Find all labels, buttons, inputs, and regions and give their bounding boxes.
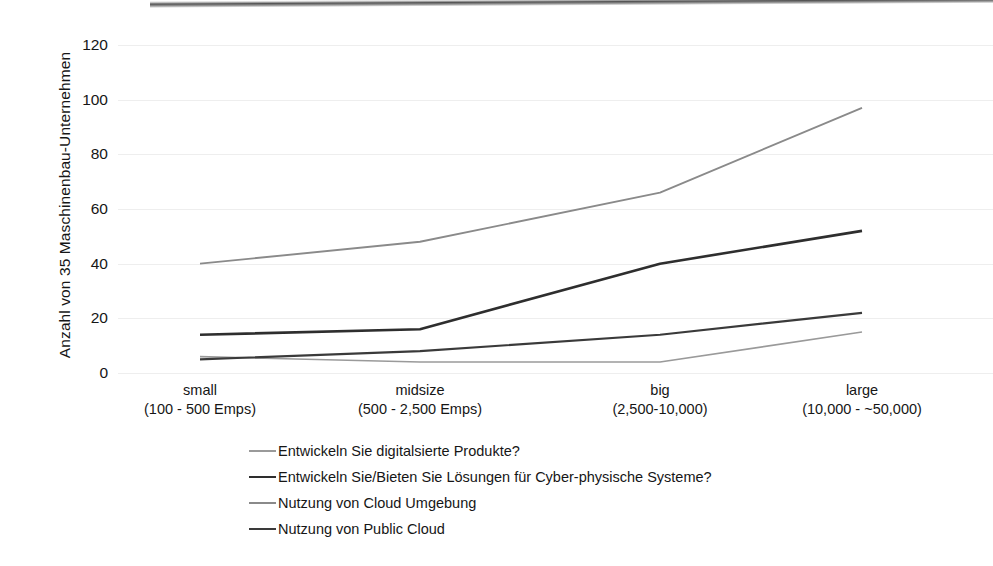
y-axis-tick-label: 60 <box>62 201 108 217</box>
x-category-name: big <box>650 382 669 398</box>
chart-legend: Entwickeln Sie digitalsierte Produkte?En… <box>249 438 949 542</box>
y-axis-tick-label: 40 <box>62 256 108 272</box>
x-axis-category-midsize: midsize(500 - 2,500 Emps) <box>305 381 535 419</box>
series-line-2 <box>200 231 862 335</box>
line-chart-figure: Anzahl von 35 Maschinenbau-Unternehmen 0… <box>0 0 993 566</box>
legend-item-3[interactable]: Nutzung von Cloud Umgebung <box>249 490 949 516</box>
y-axis-tick-label: 100 <box>62 92 108 108</box>
x-category-name: small <box>183 382 217 398</box>
plot-area <box>118 45 993 373</box>
legend-line-swatch <box>249 476 276 479</box>
legend-label: Entwickeln Sie digitalsierte Produkte? <box>278 443 520 459</box>
legend-item-2[interactable]: Entwickeln Sie/Bieten Sie Lösungen für C… <box>249 464 949 490</box>
x-category-name: large <box>846 382 878 398</box>
x-category-range: (500 - 2,500 Emps) <box>305 400 535 419</box>
legend-label: Nutzung von Cloud Umgebung <box>278 495 476 511</box>
legend-label: Entwickeln Sie/Bieten Sie Lösungen für C… <box>278 469 712 485</box>
legend-line-swatch <box>249 502 276 504</box>
x-category-name: midsize <box>395 382 444 398</box>
legend-label: Nutzung von Public Cloud <box>278 521 445 537</box>
series-line-1 <box>200 332 862 362</box>
y-axis-tick-label: 120 <box>62 37 108 53</box>
y-axis-tick-label: 80 <box>62 147 108 163</box>
y-axis-tick-label: 0 <box>62 365 108 381</box>
legend-line-swatch <box>249 450 276 452</box>
y-axis-tick-label: 20 <box>62 311 108 327</box>
series-line-4 <box>200 313 862 359</box>
series-lines <box>118 45 993 373</box>
legend-item-4[interactable]: Nutzung von Public Cloud <box>249 516 949 542</box>
legend-line-swatch <box>249 528 276 530</box>
x-category-range: (2,500-10,000) <box>545 400 775 419</box>
x-axis-category-labels: small(100 - 500 Emps)midsize(500 - 2,500… <box>0 381 993 425</box>
series-line-3 <box>200 108 862 264</box>
x-category-range: (100 - 500 Emps) <box>85 400 315 419</box>
x-category-range: (10,000 - ~50,000) <box>747 400 977 419</box>
legend-item-1[interactable]: Entwickeln Sie digitalsierte Produkte? <box>249 438 949 464</box>
x-axis-category-big: big(2,500-10,000) <box>545 381 775 419</box>
x-axis-category-large: large(10,000 - ~50,000) <box>747 381 977 419</box>
y-axis-tick-labels: 020406080100120 <box>62 0 108 566</box>
gridline <box>118 373 993 374</box>
x-axis-category-small: small(100 - 500 Emps) <box>85 381 315 419</box>
